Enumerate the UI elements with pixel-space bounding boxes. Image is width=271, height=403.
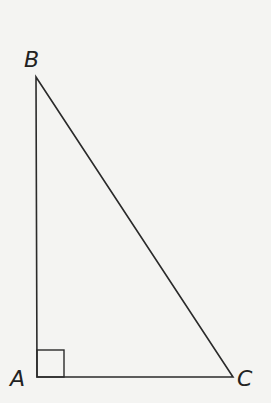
vertex-label-c: C bbox=[237, 366, 253, 391]
triangle-diagram: B A C bbox=[0, 0, 271, 403]
triangle-abc bbox=[36, 77, 233, 377]
vertex-label-b: B bbox=[24, 47, 39, 72]
right-angle-marker bbox=[37, 350, 64, 377]
vertex-label-a: A bbox=[8, 366, 25, 391]
